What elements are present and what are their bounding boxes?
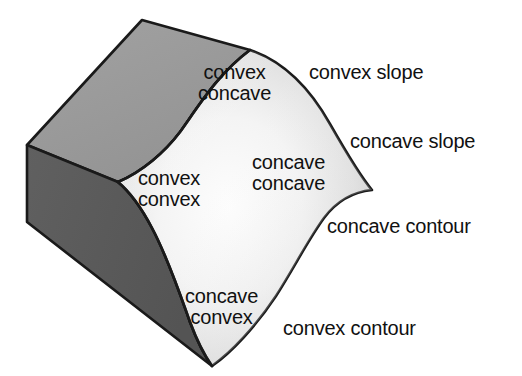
- label-convex-concave-line2: concave: [198, 83, 271, 104]
- label-concave-convex-line2: convex: [185, 307, 258, 328]
- label-convex-slope: convex slope: [309, 62, 423, 83]
- label-concave-convex-line1: concave: [185, 285, 258, 307]
- label-concave-concave: concave concave: [252, 152, 325, 194]
- curvature-diagram: convex concave convex convex concave con…: [0, 0, 522, 376]
- label-concave-concave-line1: concave: [252, 151, 325, 173]
- label-convex-convex-line1: convex: [138, 167, 200, 189]
- label-convex-concave-line1: convex: [203, 61, 265, 83]
- label-convex-contour: convex contour: [283, 318, 416, 339]
- label-convex-concave: convex concave: [198, 62, 271, 104]
- label-concave-convex: concave convex: [185, 286, 258, 328]
- label-concave-contour: concave contour: [327, 216, 471, 237]
- label-convex-convex: convex convex: [138, 168, 200, 210]
- label-concave-concave-line2: concave: [252, 173, 325, 194]
- label-concave-slope: concave slope: [350, 131, 475, 152]
- label-convex-convex-line2: convex: [138, 189, 200, 210]
